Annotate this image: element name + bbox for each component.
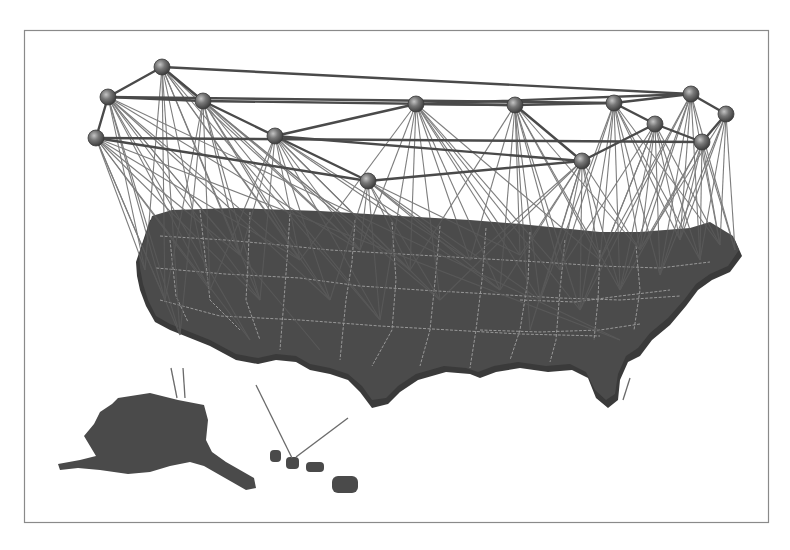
network-node-icon [606,95,622,111]
network-node-icon [683,86,699,102]
network-node-icon [507,97,523,113]
network-node-icon [574,153,590,169]
network-node-icon [360,173,376,189]
network-node-icon [154,59,170,75]
network-node-icon [718,106,734,122]
network-visualization [0,0,790,550]
network-node-icon [694,134,710,150]
network-node-icon [100,89,116,105]
network-node-icon [408,96,424,112]
network-map-figure [0,0,790,550]
network-node-icon [195,93,211,109]
network-node-icon [647,116,663,132]
network-node-icon [88,130,104,146]
network-node-icon [267,128,283,144]
